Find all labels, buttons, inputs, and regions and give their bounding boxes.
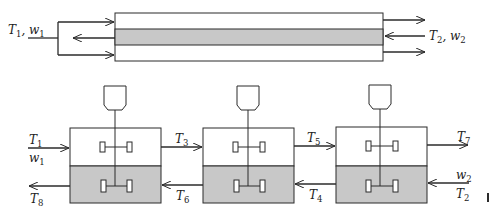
impeller-blade-icon [127, 180, 132, 192]
right-side-flows [383, 20, 425, 52]
label-T7: T7 [457, 130, 470, 146]
motor-icon [237, 86, 259, 110]
stage-1 [70, 86, 161, 203]
motor-icon [369, 85, 391, 109]
impeller-blade-icon [234, 180, 239, 192]
impeller-blade-icon [366, 180, 371, 192]
inner-tube-shaded [115, 29, 383, 45]
impeller-blade-icon [127, 142, 132, 152]
impeller-blade-icon [100, 142, 105, 152]
label-T3: T3 [175, 132, 188, 148]
impeller-blade-icon [393, 141, 398, 151]
stage-3 [336, 85, 427, 203]
motor-icon [104, 86, 126, 110]
impeller-blade-icon [233, 142, 238, 152]
label-w2: w2 [456, 168, 472, 184]
label-T2-w2-top: T2, w2 [429, 29, 466, 45]
diagram-canvas: T1, w1 T2, w2 [0, 0, 490, 212]
impeller-blade-icon [260, 180, 265, 192]
impeller-blade-icon [260, 142, 265, 152]
label-T8: T8 [30, 192, 43, 208]
label-T6: T6 [176, 189, 189, 205]
impeller-blade-icon [101, 180, 106, 192]
edge-mark [487, 193, 489, 202]
label-T4: T4 [309, 188, 322, 204]
label-T1-w1-top: T1, w1 [8, 23, 45, 39]
impeller-blade-icon [366, 141, 371, 151]
label-w1: w1 [29, 151, 45, 167]
label-T5: T5 [307, 131, 320, 147]
label-T2: T2 [456, 187, 469, 203]
impeller-blade-icon [393, 180, 398, 192]
stage-2 [203, 86, 294, 203]
double-pipe-exchanger [115, 13, 383, 61]
label-T1: T1 [29, 133, 42, 149]
